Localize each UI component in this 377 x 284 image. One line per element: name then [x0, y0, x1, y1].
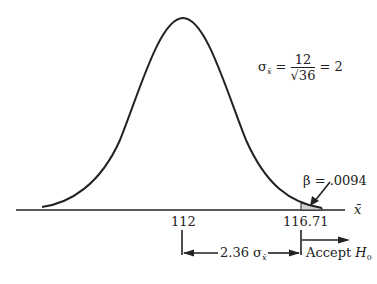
diagram-canvas: [0, 0, 377, 284]
numerator: 12: [291, 53, 316, 68]
accept-arrow-icon: [338, 237, 350, 244]
tick-label-critical: 116.71: [283, 215, 329, 228]
fraction: 12√36: [291, 53, 316, 82]
beta-label: β = .0094: [303, 174, 367, 187]
denominator: √36: [291, 68, 316, 82]
distance-label: 2.36 σx̄: [220, 246, 266, 262]
hypothesis-subscript: 0: [367, 253, 372, 262]
sigma-subscript: x̄: [267, 67, 272, 76]
distance-text: 2.36 σ: [220, 245, 262, 260]
equals-sign: =: [276, 59, 287, 74]
arrow-right-icon: [289, 250, 300, 257]
accept-text: Accept: [306, 245, 355, 260]
std-error-formula: σx̄ = 12√36 = 2: [258, 53, 343, 82]
tick-label-mean: 112: [171, 215, 196, 228]
arrow-left-icon: [183, 250, 194, 257]
axis-label: x̄: [354, 203, 361, 216]
normal-curve: [42, 18, 322, 208]
formula-result: = 2: [320, 59, 343, 74]
sigma-symbol: σ: [258, 59, 267, 74]
accept-label: Accept H0: [306, 246, 372, 262]
distance-subscript: x̄: [262, 253, 267, 262]
hypothesis-var: H: [355, 245, 366, 260]
